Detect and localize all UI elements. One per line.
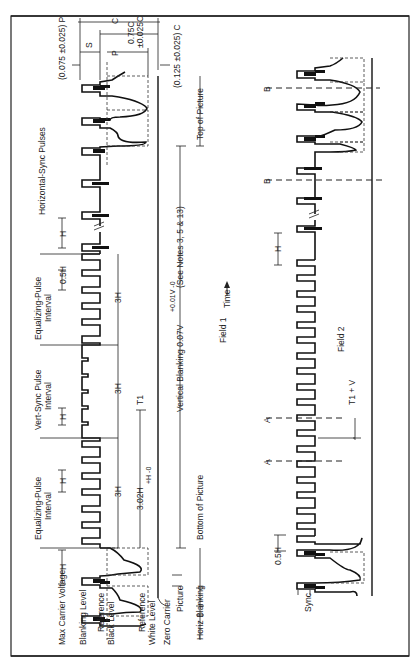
label-ref-white-2: White Level [147,600,157,645]
label-max-carrier: Max Carrier Voltage [57,570,67,645]
figure-frame [11,16,409,656]
label-blanking: Blanking Level [78,590,88,645]
label-h: H [58,478,68,484]
label-field-1: Field 1 [218,317,228,343]
label-3h: 3H [113,383,123,394]
label-marker-b: B [262,86,272,92]
field1-equalizing-vsync-pulses [82,254,100,548]
field1-waveform [82,62,166,640]
label-t1: T1 [135,395,145,405]
label-marker-a: A [262,417,272,423]
label-field2-h: H [273,246,283,252]
label-s: S [84,42,94,48]
label-c125: (0.125 ±0.025) C [172,24,182,88]
label-sync-tolerance: (0.075 ±0.025) P [57,16,67,80]
label-marker-a: A [262,459,272,465]
label-3h: 3H [113,292,123,303]
label-c075-tol: ±0.025C [135,16,145,48]
label-t1-span-tol: +H -0 [145,467,152,484]
label-equalizing-1b: Interval [43,492,53,520]
label-ref-white-1: Reference [137,593,147,632]
field1-hsync-pulses [82,72,147,226]
label-bottom-of-picture: Bottom of Picture [195,475,205,540]
field2-waveform [266,58,384,596]
label-ref-black-2: Black Level [106,601,116,645]
label-field2-half-h: 0.5H [273,547,283,565]
label-half-h: 0.5H [58,266,68,284]
label-picture: Picture [175,585,185,612]
label-c: C [110,18,120,24]
field2-equalizing-vsync-pulses [297,260,315,536]
label-top-of-picture: Top of Picture [195,88,205,140]
label-sync: Sync [303,592,313,612]
label-equalizing-2a: Equalizing-Pulse [33,276,43,340]
label-vert-sync-b: Interval [43,382,53,410]
label-see-notes: (See Notes 3, 5 & 13) [175,206,185,288]
tv-sync-waveform-diagram: Max Carrier Voltage Blanking Level Refer… [0,0,416,661]
label-equalizing-1a: Equalizing-Pulse [33,476,43,540]
label-3h: 3H [113,486,123,497]
label-field-2: Field 2 [336,326,346,352]
label-marker-b: B [262,178,272,184]
field2-hsync-pulses [297,58,362,214]
label-h: H [58,231,68,237]
label-horizontal-sync: Horizontal-Sync Pulses [37,127,47,215]
label-h: H [58,414,68,420]
label-h: H [58,564,68,570]
label-p: P [110,50,120,56]
label-zero-carrier: Zero Carrier [162,599,172,645]
label-equalizing-2b: Interval [43,294,53,322]
label-vert-sync-a: Vert-Sync Pulse [33,369,43,430]
label-horiz-blanking: Horiz Blanking [195,585,205,640]
label-t1-span: 3.02H [135,487,145,510]
label-t1-v: T1 + V [347,379,357,405]
label-ref-black-1: Reference [96,593,106,632]
label-vertical-blanking: Vertical Blanking 0.07V [175,324,185,412]
